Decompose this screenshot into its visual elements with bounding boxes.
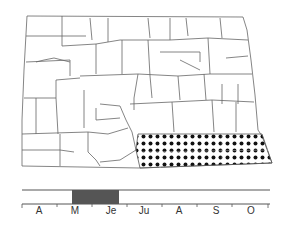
active-period — [72, 190, 119, 204]
month-label: S — [213, 205, 220, 216]
month-label: A — [176, 205, 183, 216]
month-label: Je — [106, 205, 117, 216]
month-label: A — [36, 205, 43, 216]
flight-period-bar — [0, 0, 291, 238]
month-label: Ju — [139, 205, 150, 216]
month-label: O — [247, 205, 255, 216]
month-label: M — [71, 205, 79, 216]
